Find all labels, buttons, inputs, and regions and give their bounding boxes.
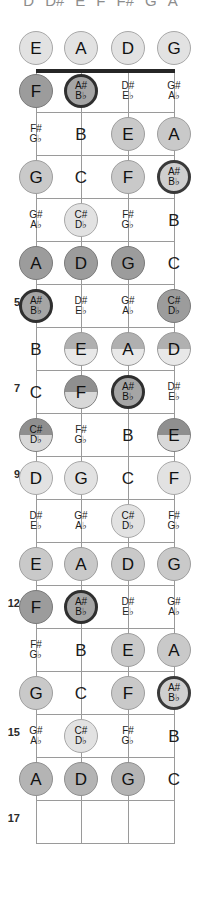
note-label-enharmonic: A♭ — [75, 521, 87, 531]
note-marker-d-s1-f10[interactable]: D — [19, 461, 53, 495]
note-marker-dsharp-eflat-s1-f11[interactable]: D#E♭ — [19, 504, 53, 538]
note-marker-a-s4-f14[interactable]: A — [157, 633, 191, 667]
note-marker-b-s3-f9[interactable]: B — [111, 418, 145, 452]
note-marker-csharp-dflat-s3-f11[interactable]: C#D♭ — [111, 504, 145, 538]
note-marker-a-s3-f7[interactable]: A — [111, 332, 145, 366]
note-label-primary: F — [31, 599, 41, 616]
note-label-primary: A — [75, 556, 86, 573]
note-marker-b-s4-f4[interactable]: B — [157, 203, 191, 237]
note-marker-gsharp-aflat-s4-f13[interactable]: G#A♭ — [157, 590, 191, 624]
note-label-primary: G — [74, 470, 87, 487]
note-marker-a-s4-f2[interactable]: A — [157, 117, 191, 151]
note-label-enharmonic: A♭ — [30, 736, 42, 746]
note-marker-asharp-bflat-s4-f3[interactable]: A#B♭ — [157, 160, 191, 194]
note-marker-f-s3-f15[interactable]: F — [111, 676, 145, 710]
note-marker-g-s3-f17[interactable]: G — [111, 762, 145, 796]
note-marker-dsharp-eflat-s4-f8[interactable]: D#E♭ — [157, 375, 191, 409]
note-label-enharmonic: B♭ — [75, 607, 87, 617]
note-marker-d-s2-f17[interactable]: D — [64, 762, 98, 796]
note-marker-c-s2-f3[interactable]: C — [64, 160, 98, 194]
note-marker-d-s3-f0[interactable]: D — [111, 31, 145, 65]
note-marker-c-s4-f17[interactable]: C — [157, 762, 191, 796]
note-marker-csharp-dflat-s2-f16[interactable]: C#D♭ — [64, 719, 98, 753]
note-marker-csharp-dflat-s2-f4[interactable]: C#D♭ — [64, 203, 98, 237]
note-label-enharmonic: D♭ — [75, 220, 87, 230]
note-marker-g-s1-f3[interactable]: G — [19, 160, 53, 194]
note-marker-e-s2-f7[interactable]: E — [64, 332, 98, 366]
note-marker-c-s4-f5[interactable]: C — [157, 246, 191, 280]
note-marker-e-s4-f9[interactable]: E — [157, 418, 191, 452]
note-label-enharmonic: G♭ — [122, 736, 135, 746]
note-label-primary: E — [168, 427, 179, 444]
note-label-primary: C — [122, 470, 134, 487]
note-marker-d-s4-f7[interactable]: D — [157, 332, 191, 366]
note-marker-fsharp-gflat-s3-f16[interactable]: F#G♭ — [111, 719, 145, 753]
note-marker-f-s1-f1[interactable]: F — [19, 74, 53, 108]
note-marker-fsharp-gflat-s1-f2[interactable]: F#G♭ — [19, 117, 53, 151]
note-label-enharmonic: E♭ — [30, 521, 42, 531]
note-marker-g-s3-f5[interactable]: G — [111, 246, 145, 280]
note-marker-c-s1-f8[interactable]: C — [19, 375, 53, 409]
note-marker-e-s1-f0[interactable]: E — [19, 31, 53, 65]
note-marker-g-s4-f0[interactable]: G — [157, 31, 191, 65]
note-label-primary: G — [121, 255, 134, 272]
note-marker-g-s4-f12[interactable]: G — [157, 547, 191, 581]
note-marker-b-s1-f7[interactable]: B — [19, 332, 53, 366]
note-marker-gsharp-aflat-s4-f1[interactable]: G#A♭ — [157, 74, 191, 108]
note-label-primary: A — [30, 255, 41, 272]
note-marker-b-s4-f16[interactable]: B — [157, 719, 191, 753]
note-label-primary: C — [75, 685, 87, 702]
note-marker-asharp-bflat-s1-f6[interactable]: A#B♭ — [19, 289, 53, 323]
note-label-enharmonic: D♭ — [75, 736, 87, 746]
note-marker-asharp-bflat-s2-f1[interactable]: A#B♭ — [64, 74, 98, 108]
note-marker-gsharp-aflat-s2-f11[interactable]: G#A♭ — [64, 504, 98, 538]
note-marker-e-s3-f2[interactable]: E — [111, 117, 145, 151]
note-label-enharmonic: A♭ — [122, 306, 134, 316]
note-marker-f-s2-f8[interactable]: F — [64, 375, 98, 409]
note-label-primary: E — [30, 556, 41, 573]
note-marker-fsharp-gflat-s3-f4[interactable]: F#G♭ — [111, 203, 145, 237]
note-marker-d-s3-f12[interactable]: D — [111, 547, 145, 581]
note-label-primary: D — [75, 771, 87, 788]
note-marker-gsharp-aflat-s3-f6[interactable]: G#A♭ — [111, 289, 145, 323]
fretboard: 579121517EADGFA#B♭D#E♭G#A♭F#G♭BEAGCFA#B♭… — [0, 0, 201, 901]
fret-line-8 — [36, 413, 175, 414]
note-marker-asharp-bflat-s2-f13[interactable]: A#B♭ — [64, 590, 98, 624]
note-marker-c-s3-f10[interactable]: C — [111, 461, 145, 495]
note-marker-gsharp-aflat-s1-f16[interactable]: G#A♭ — [19, 719, 53, 753]
note-marker-a-s2-f12[interactable]: A — [64, 547, 98, 581]
note-marker-g-s2-f10[interactable]: G — [64, 461, 98, 495]
note-label-primary: G — [167, 40, 180, 57]
note-marker-dsharp-eflat-s3-f1[interactable]: D#E♭ — [111, 74, 145, 108]
note-marker-b-s2-f2[interactable]: B — [64, 117, 98, 151]
fret-number-12: 12 — [0, 597, 20, 609]
note-marker-e-s3-f14[interactable]: E — [111, 633, 145, 667]
note-marker-f-s1-f13[interactable]: F — [19, 590, 53, 624]
fret-line-17 — [36, 800, 175, 801]
note-marker-f-s4-f10[interactable]: F — [157, 461, 191, 495]
note-label-primary: G — [121, 771, 134, 788]
note-label-primary: F — [76, 384, 86, 401]
note-marker-d-s2-f5[interactable]: D — [64, 246, 98, 280]
note-marker-fsharp-gflat-s4-f11[interactable]: F#G♭ — [157, 504, 191, 538]
note-marker-dsharp-eflat-s2-f6[interactable]: D#E♭ — [64, 289, 98, 323]
note-marker-dsharp-eflat-s3-f13[interactable]: D#E♭ — [111, 590, 145, 624]
note-marker-a-s1-f17[interactable]: A — [19, 762, 53, 796]
note-marker-g-s1-f15[interactable]: G — [19, 676, 53, 710]
note-marker-fsharp-gflat-s2-f9[interactable]: F#G♭ — [64, 418, 98, 452]
note-marker-c-s2-f15[interactable]: C — [64, 676, 98, 710]
fret-number-15: 15 — [0, 726, 20, 738]
note-marker-asharp-bflat-s3-f8[interactable]: A#B♭ — [111, 375, 145, 409]
note-marker-a-s1-f5[interactable]: A — [19, 246, 53, 280]
note-label-enharmonic: B♭ — [168, 177, 180, 187]
note-label-enharmonic: D♭ — [122, 521, 134, 531]
note-marker-csharp-dflat-s4-f6[interactable]: C#D♭ — [157, 289, 191, 323]
note-marker-f-s3-f3[interactable]: F — [111, 160, 145, 194]
note-marker-asharp-bflat-s4-f15[interactable]: A#B♭ — [157, 676, 191, 710]
note-marker-b-s2-f14[interactable]: B — [64, 633, 98, 667]
note-marker-csharp-dflat-s1-f9[interactable]: C#D♭ — [19, 418, 53, 452]
note-marker-gsharp-aflat-s1-f4[interactable]: G#A♭ — [19, 203, 53, 237]
note-marker-e-s1-f12[interactable]: E — [19, 547, 53, 581]
note-marker-a-s2-f0[interactable]: A — [64, 31, 98, 65]
note-marker-fsharp-gflat-s1-f14[interactable]: F#G♭ — [19, 633, 53, 667]
